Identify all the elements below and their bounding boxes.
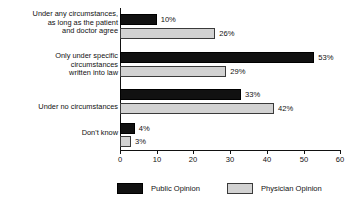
bar-value-physician-dont-know: 3% <box>135 137 146 146</box>
x-tick-label-50: 50 <box>300 155 308 164</box>
bar-physician-dont-know <box>120 136 131 147</box>
category-label-specific-circumstances: Only under specific circumstances writte… <box>6 52 118 78</box>
legend-entry-physician-opinion: Physician Opinion <box>227 183 322 194</box>
category-label-any-circumstances: Under any circumstances, as long as the … <box>6 10 118 36</box>
x-tick-label-20: 20 <box>189 155 197 164</box>
legend-swatch-public-opinion <box>117 183 143 194</box>
bar-value-public-dont-know: 4% <box>139 124 150 133</box>
x-tick-label-30: 30 <box>226 155 234 164</box>
bar-physician-any-circumstances <box>120 28 215 39</box>
bar-value-physician-any-circumstances: 26% <box>219 29 234 38</box>
bar-public-specific-circumstances <box>120 52 314 63</box>
x-tick-20 <box>193 150 194 154</box>
category-label-no-circumstances: Under no circumstances <box>6 103 118 112</box>
bar-value-public-specific-circumstances: 53% <box>318 53 333 62</box>
x-tick-30 <box>230 150 231 154</box>
category-label-dont-know: Don't know <box>6 129 118 138</box>
x-tick-10 <box>157 150 158 154</box>
legend-label-public-opinion: Public Opinion <box>151 184 200 193</box>
legend-entry-public-opinion: Public Opinion <box>117 183 200 194</box>
x-tick-0 <box>120 150 121 154</box>
bar-physician-no-circumstances <box>120 103 274 114</box>
bar-physician-specific-circumstances <box>120 66 226 77</box>
bar-public-dont-know <box>120 123 135 134</box>
legend: Public Opinion Physician Opinion <box>0 183 354 203</box>
bar-chart: Under any circumstances, as long as the … <box>0 0 354 212</box>
bar-value-public-no-circumstances: 33% <box>245 90 260 99</box>
bar-value-public-any-circumstances: 10% <box>161 15 176 24</box>
legend-swatch-physician-opinion <box>227 183 253 194</box>
x-tick-label-60: 60 <box>336 155 344 164</box>
x-tick-label-10: 10 <box>153 155 161 164</box>
bar-public-no-circumstances <box>120 89 241 100</box>
x-tick-label-40: 40 <box>263 155 271 164</box>
x-tick-60 <box>340 150 341 154</box>
x-tick-50 <box>304 150 305 154</box>
legend-label-physician-opinion: Physician Opinion <box>261 184 322 193</box>
x-tick-label-0: 0 <box>118 155 122 164</box>
bar-value-physician-specific-circumstances: 29% <box>230 67 245 76</box>
bar-value-physician-no-circumstances: 42% <box>278 104 293 113</box>
bar-public-any-circumstances <box>120 14 157 25</box>
x-tick-40 <box>267 150 268 154</box>
